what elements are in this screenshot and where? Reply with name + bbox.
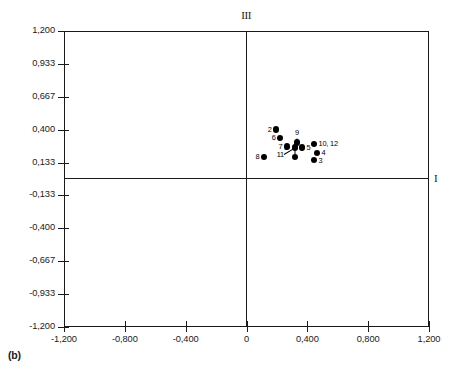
y-tick-label: 0,400	[32, 125, 55, 134]
y-tick-label: -1,200	[29, 322, 55, 331]
x-tick-mark	[125, 321, 126, 332]
y-tick-label: -0,133	[29, 190, 55, 199]
figure-caption: (b)	[8, 350, 21, 361]
data-point-label: 5	[307, 144, 311, 151]
x-tick-label: 0,400	[296, 335, 319, 344]
vertical-axis-line	[246, 31, 247, 327]
y-tick-mark	[58, 97, 69, 98]
scatter-plot-figure: III I 1,2000,9330,6670,4000,133-0,133-0,…	[0, 0, 456, 369]
data-point-label: 8	[256, 153, 260, 160]
data-point-label: 1	[284, 144, 288, 151]
y-tick-mark	[58, 163, 69, 164]
y-tick-label: 0,133	[32, 158, 55, 167]
data-point	[277, 135, 283, 141]
x-tick-mark	[307, 321, 308, 332]
y-tick-label: -0,667	[29, 256, 55, 265]
y-tick-mark	[58, 130, 69, 131]
horizontal-axis-name: I	[434, 173, 438, 184]
data-point	[299, 144, 305, 150]
y-tick-label: 1,200	[32, 26, 55, 35]
x-tick-label: -0,400	[173, 335, 199, 344]
x-tick-mark	[64, 321, 65, 332]
y-tick-mark	[58, 64, 69, 65]
vertical-axis-name: III	[241, 10, 251, 21]
x-tick-label: 0	[244, 335, 249, 344]
point-label-leader-line	[296, 138, 297, 141]
y-tick-label: 0,667	[32, 92, 55, 101]
y-tick-label: -0,933	[29, 289, 55, 298]
data-point-label: 7	[279, 143, 283, 150]
point-label-leader-line	[295, 145, 296, 155]
y-tick-mark	[58, 261, 69, 262]
data-point-label: 9	[295, 129, 299, 136]
y-tick-label: 0,933	[32, 59, 55, 68]
data-point-label: 3	[319, 157, 323, 164]
y-tick-mark	[58, 195, 69, 196]
data-point	[273, 126, 279, 132]
x-tick-mark	[429, 321, 430, 332]
x-tick-mark	[247, 321, 248, 332]
y-tick-label: -0,400	[29, 223, 55, 232]
x-tick-mark	[368, 321, 369, 332]
data-point-label: 11	[277, 151, 284, 158]
y-tick-mark	[58, 294, 69, 295]
x-tick-label: 1,200	[418, 335, 441, 344]
x-tick-label: 0,800	[357, 335, 380, 344]
data-point-label: 6	[272, 134, 276, 141]
data-point-label: 10, 12	[319, 140, 338, 147]
x-tick-label: -1,200	[51, 335, 77, 344]
y-tick-mark	[58, 228, 69, 229]
y-tick-mark	[58, 31, 69, 32]
x-tick-label: -0,800	[112, 335, 138, 344]
x-tick-mark	[186, 321, 187, 332]
